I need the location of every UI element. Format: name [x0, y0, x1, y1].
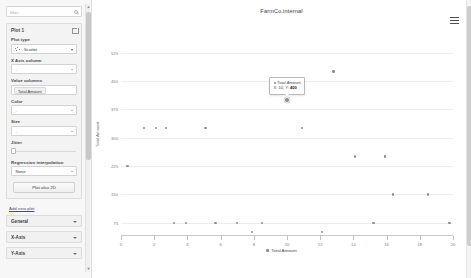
jitter-slider-track	[12, 151, 76, 152]
chart-title: FarmCo.internal	[92, 8, 471, 14]
scatter-plot[interactable]: 7515022530037545052502468101214161820	[121, 28, 453, 236]
regression-interpolation-label: Regression interpolation	[11, 160, 77, 165]
settings-sidebar: filter Plot 1 Plot type Scatter X Axis c…	[0, 0, 92, 278]
plot-type-select[interactable]: Scatter	[11, 44, 77, 54]
tooltip-separator: , Y:	[283, 85, 290, 90]
x-tick-label: 16	[384, 242, 389, 247]
chart-pane: FarmCo.internal Total Amount 75150225300…	[92, 0, 471, 278]
x-tick	[187, 236, 188, 240]
scatter-point[interactable]	[384, 155, 386, 157]
chevron-down-icon	[71, 131, 73, 132]
y-gridline	[121, 223, 453, 224]
y-gridline	[121, 138, 453, 139]
value-column-tag[interactable]: Total Amount	[14, 87, 46, 94]
x-tick-label: 2	[153, 242, 155, 247]
x-tick	[353, 236, 354, 240]
chart-legend[interactable]: Total Amount	[92, 248, 471, 253]
scatter-point[interactable]	[321, 231, 323, 233]
scatter-point[interactable]	[126, 165, 128, 167]
plot-title: Plot 1	[11, 28, 24, 33]
tooltip-coords-row: X: 10, Y: 400	[274, 85, 301, 91]
x-tick-label: 14	[351, 242, 356, 247]
y-tick-label: 375	[111, 107, 118, 112]
hamburger-menu-icon[interactable]	[450, 17, 459, 24]
scatter-point[interactable]	[332, 70, 334, 72]
scatter-icon	[15, 47, 22, 53]
x-tick-label: 10	[285, 242, 290, 247]
chevron-down-icon	[71, 110, 73, 111]
y-tick-label: 225	[111, 164, 118, 169]
plot-configurator-window: filter Plot 1 Plot type Scatter X Axis c…	[0, 0, 471, 278]
size-value: -	[16, 127, 17, 137]
color-label: Color	[11, 99, 77, 104]
scatter-point[interactable]	[165, 127, 167, 129]
scatter-point[interactable]	[354, 155, 356, 157]
size-select[interactable]: -	[11, 126, 77, 136]
x-tick-label: 6	[219, 242, 221, 247]
sidebar-scrollbar-thumb[interactable]	[86, 12, 91, 160]
accordion-y-axis[interactable]: Y-Axis	[6, 247, 82, 259]
filter-placeholder: filter	[10, 8, 19, 17]
scroll-down-icon[interactable]: ▼	[86, 266, 91, 272]
size-label: Size	[11, 119, 77, 124]
scatter-point[interactable]	[372, 222, 374, 224]
x-tick	[154, 236, 155, 240]
chevron-down-icon	[71, 171, 73, 172]
plot-also-2d-button[interactable]: Plot also 2D	[13, 182, 75, 193]
y-tick-label: 150	[111, 192, 118, 197]
x-axis-column-value: -	[16, 65, 17, 75]
scatter-point[interactable]	[204, 127, 206, 129]
chevron-down-icon	[71, 49, 73, 51]
scatter-point[interactable]	[448, 222, 450, 224]
scatter-point[interactable]	[301, 127, 303, 129]
scatter-point[interactable]	[427, 193, 429, 195]
chart-scrollbar-thumb[interactable]	[467, 6, 471, 246]
y-tick-label: 525	[111, 50, 118, 55]
tooltip-series-swatch	[274, 82, 276, 84]
color-select[interactable]: -	[11, 105, 77, 115]
x-tick	[221, 236, 222, 240]
filter-input[interactable]: filter	[6, 6, 82, 17]
scroll-up-icon[interactable]: ▲	[86, 4, 91, 10]
jitter-slider-handle[interactable]	[11, 148, 16, 154]
point-tooltip: Total Amount X: 10, Y: 400	[269, 77, 305, 95]
x-axis-column-label: X Axis column	[11, 58, 77, 63]
accordion-general-label: General	[11, 216, 28, 228]
x-tick	[453, 236, 454, 240]
scatter-point[interactable]	[155, 127, 157, 129]
value-columns-select[interactable]: Total Amount	[11, 85, 77, 95]
x-tick-label: 12	[318, 242, 323, 247]
scatter-point[interactable]	[251, 231, 253, 233]
color-value: -	[16, 106, 17, 116]
y-axis-label: Total Amount	[95, 122, 100, 147]
scatter-point[interactable]	[143, 127, 145, 129]
chevron-down-icon	[73, 221, 77, 223]
x-tick	[387, 236, 388, 240]
chevron-down-icon	[71, 69, 73, 70]
trash-icon[interactable]	[72, 27, 77, 33]
add-new-plot-link[interactable]: Add new plot	[9, 206, 87, 211]
x-tick-label: 8	[253, 242, 255, 247]
scatter-point[interactable]	[185, 222, 187, 224]
plot-1-card: Plot 1 Plot type Scatter X Axis column -…	[6, 23, 82, 199]
jitter-slider[interactable]	[11, 147, 77, 156]
tooltip-series-name: Total Amount	[277, 80, 301, 85]
x-tick-label: 18	[417, 242, 422, 247]
y-tick-label: 300	[111, 135, 118, 140]
scatter-point[interactable]	[214, 222, 216, 224]
sidebar-scrollbar[interactable]: ▲ ▼	[85, 4, 90, 272]
plot-card-header: Plot 1	[11, 27, 77, 33]
accordion-x-axis-label: X-Axis	[11, 232, 25, 244]
accordion-general[interactable]: General	[6, 215, 82, 227]
x-tick	[254, 236, 255, 240]
regression-interpolation-select[interactable]: None	[11, 166, 77, 176]
scatter-point-selected[interactable]	[285, 98, 288, 101]
x-axis-column-select[interactable]: -	[11, 64, 77, 74]
search-icon	[74, 10, 78, 14]
chart-scrollbar[interactable]	[466, 0, 471, 278]
chevron-down-icon	[73, 237, 77, 239]
plot-type-label: Plot type	[11, 37, 77, 42]
tooltip-arrow	[285, 94, 289, 97]
tooltip-y-value: 400	[290, 85, 297, 90]
accordion-x-axis[interactable]: X-Axis	[6, 231, 82, 243]
